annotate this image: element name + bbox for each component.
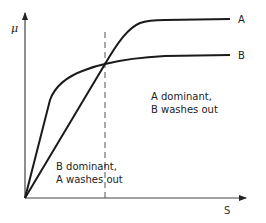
monod-competition-diagram: μ S A B A dominant, B washes out B domin… (0, 0, 266, 223)
region-left-line1: B dominant, (56, 161, 117, 172)
x-axis-label: S (224, 205, 230, 216)
region-right-line2: B washes out (151, 104, 218, 115)
curve-a-label: A (238, 14, 245, 25)
region-left-line2: A washes out (56, 174, 123, 185)
y-axis-label: μ (11, 22, 18, 35)
region-right-line1: A dominant, (151, 91, 212, 102)
curve-b-label: B (238, 50, 245, 61)
